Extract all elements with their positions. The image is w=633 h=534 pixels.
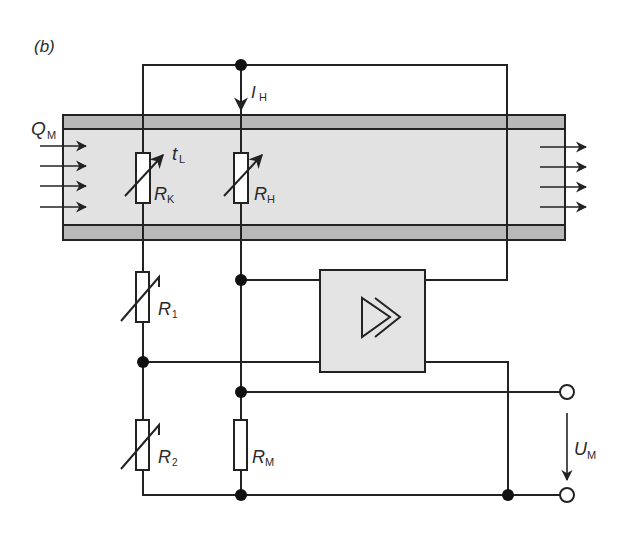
svg-text:M: M	[265, 456, 274, 468]
svg-text:R: R	[158, 299, 171, 319]
panel-label: (b)	[34, 37, 55, 56]
svg-text:2: 2	[172, 457, 178, 468]
svg-text:H: H	[267, 193, 275, 205]
svg-text:M: M	[587, 449, 596, 461]
amplifier	[320, 270, 425, 372]
svg-text:t: t	[172, 143, 178, 164]
svg-text:K: K	[167, 193, 175, 205]
pipe-lower-wall	[63, 225, 565, 240]
label-u-m: U M	[574, 439, 596, 461]
svg-text:M: M	[47, 129, 56, 141]
svg-text:H: H	[259, 91, 267, 103]
svg-text:I: I	[251, 83, 256, 102]
svg-text:U: U	[574, 439, 588, 459]
label-q-m: Q M	[31, 118, 56, 141]
svg-text:R: R	[254, 184, 267, 204]
svg-text:R: R	[158, 447, 171, 467]
svg-text:1: 1	[172, 309, 178, 320]
svg-text:R: R	[252, 447, 265, 467]
svg-text:R: R	[154, 184, 167, 204]
output-terminal-bottom	[560, 488, 574, 502]
svg-text:L: L	[179, 153, 185, 165]
circuit-diagram: (b)	[0, 0, 633, 534]
label-r-2: R 2	[158, 447, 178, 468]
resistor-r-1	[121, 272, 159, 322]
svg-text:Q: Q	[31, 118, 46, 139]
label-r-m: R M	[252, 447, 274, 468]
resistor-r-2	[121, 420, 159, 470]
resistor-r-m	[234, 420, 247, 470]
label-i-h: I H	[251, 83, 267, 103]
pipe-upper-wall	[63, 115, 565, 129]
label-r-1: R 1	[158, 299, 178, 320]
output-terminal-top	[560, 385, 574, 399]
